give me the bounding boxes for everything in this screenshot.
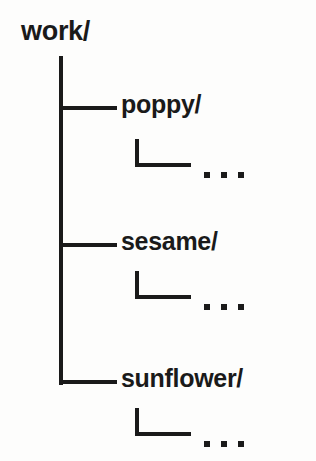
ellipsis-dot: [221, 441, 227, 447]
tree-elbow-horizontal-sunflower: [135, 432, 191, 436]
tree-root-label: work/: [21, 18, 90, 45]
tree-ellipsis-sesame: [204, 304, 248, 312]
ellipsis-dot: [238, 304, 244, 310]
tree-node-label-poppy: poppy/: [121, 92, 201, 117]
ellipsis-dot: [204, 441, 210, 447]
ellipsis-dot: [238, 441, 244, 447]
tree-branch-connector-poppy: [59, 106, 117, 110]
ellipsis-dot: [238, 172, 244, 178]
ellipsis-dot: [204, 304, 210, 310]
ellipsis-dot: [204, 172, 210, 178]
tree-elbow-horizontal-poppy: [135, 163, 191, 167]
tree-branch-connector-sesame: [59, 243, 117, 247]
tree-node-label-sunflower: sunflower/: [121, 366, 243, 391]
tree-ellipsis-sunflower: [204, 441, 248, 449]
tree-elbow-horizontal-sesame: [135, 295, 191, 299]
tree-ellipsis-poppy: [204, 172, 248, 180]
directory-tree-diagram: work/ poppy/ sesame/ sunflower/: [0, 0, 316, 461]
tree-branch-connector-sunflower: [59, 380, 117, 384]
ellipsis-dot: [221, 172, 227, 178]
ellipsis-dot: [221, 304, 227, 310]
tree-node-label-sesame: sesame/: [121, 229, 218, 254]
